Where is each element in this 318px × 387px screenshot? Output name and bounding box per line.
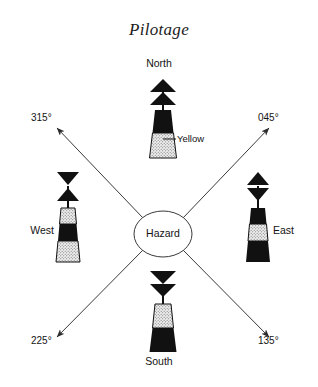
bearing-label-135: 135° <box>258 335 279 346</box>
east-topmark-upper-cone <box>247 172 269 185</box>
west-body-yellow-band-upper <box>60 208 77 224</box>
cardinal-mark-east <box>246 172 270 262</box>
cardinal-mark-west <box>56 172 80 262</box>
mark-label-west: West <box>16 224 54 236</box>
west-body-black-band <box>58 224 78 241</box>
cardinal-mark-north <box>150 79 177 158</box>
bearing-line-225 <box>57 250 143 337</box>
north-body-black-band <box>153 110 174 133</box>
south-topmark-upper-cone <box>150 271 176 284</box>
mark-label-north: North <box>0 57 318 69</box>
west-body-yellow-band-lower <box>56 241 80 262</box>
bearing-label-045: 045° <box>258 112 279 123</box>
south-body-black-band <box>150 328 177 352</box>
bearing-line-135 <box>183 250 269 337</box>
hazard-label: Hazard <box>134 227 192 239</box>
east-body-black-band-lower <box>246 241 270 262</box>
south-body-yellow-band <box>153 304 174 328</box>
yellow-callout-label: Yellow <box>177 133 204 144</box>
mark-label-south: South <box>0 355 318 367</box>
east-body-black-band-upper <box>250 208 267 224</box>
mark-label-east: East <box>273 224 294 236</box>
north-body-yellow-band <box>150 133 177 158</box>
east-body-yellow-band <box>248 224 268 241</box>
west-topmark-upper-cone <box>57 172 79 185</box>
bearing-label-225: 225° <box>31 335 52 346</box>
cardinal-mark-south <box>150 271 177 352</box>
pilotage-diagram-page: Pilotage <box>0 0 318 387</box>
bearing-label-315: 315° <box>31 112 52 123</box>
